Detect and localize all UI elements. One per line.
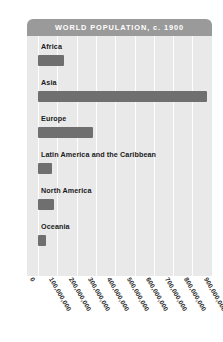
chart-title-band: WORLD POPULATION, c. 1900	[27, 19, 212, 36]
bar-label: Europe	[41, 114, 66, 123]
bar-row: Africa	[27, 40, 212, 76]
bar-label: Asia	[41, 78, 57, 87]
x-axis-tick-labels: 0100,000,000200,000,000300,000,000400,00…	[0, 276, 223, 342]
bar	[38, 91, 207, 102]
bar-label: Oceania	[41, 222, 70, 231]
bar-label: Latin America and the Caribbean	[41, 150, 156, 159]
bar	[38, 55, 64, 66]
bar-row: Europe	[27, 112, 212, 148]
population-bar-chart: WORLD POPULATION, c. 1900 AfricaAsiaEuro…	[0, 0, 223, 342]
bar-row: Oceania	[27, 220, 212, 256]
bar	[38, 163, 52, 174]
bar	[38, 127, 93, 138]
plot-area: AfricaAsiaEuropeLatin America and the Ca…	[27, 36, 212, 276]
axis-tick-label: 0	[29, 276, 37, 283]
bar-row: North America	[27, 184, 212, 220]
chart-title: WORLD POPULATION, c. 1900	[55, 23, 184, 32]
bar-label: Africa	[41, 42, 62, 51]
bar-label: North America	[41, 186, 92, 195]
bar-row: Latin America and the Caribbean	[27, 148, 212, 184]
bar	[38, 199, 54, 210]
bar-row: Asia	[27, 76, 212, 112]
bar	[38, 235, 46, 246]
